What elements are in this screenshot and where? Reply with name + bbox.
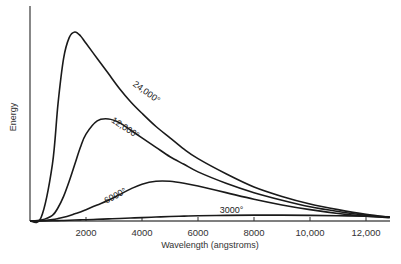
curve-label: 12,000°	[110, 115, 142, 141]
curve-label: 24,000°	[131, 79, 162, 106]
x-tick-label: 6000	[187, 227, 208, 238]
x-tick-label: 2000	[75, 227, 96, 238]
curve-24000	[30, 32, 390, 223]
x-tick-label: 10,000	[295, 227, 324, 238]
x-tick-label: 4000	[131, 227, 152, 238]
curve-12000	[30, 119, 390, 221]
curve-3000	[30, 215, 390, 221]
blackbody-chart: 200040006000800010,00012,000 24,000°12,0…	[0, 0, 401, 264]
x-tick-label: 8000	[243, 227, 264, 238]
curve-label: 3000°	[220, 205, 244, 215]
curve-labels: 24,000°12,000°6000°3000°	[103, 79, 244, 216]
x-axis-ticks: 200040006000800010,00012,000	[75, 217, 380, 238]
x-axis-title: Wavelength (angstroms)	[161, 240, 259, 250]
x-tick-label: 12,000	[351, 227, 380, 238]
y-axis-title: Energy	[8, 102, 18, 131]
curve-label: 6000°	[103, 186, 129, 206]
curves	[30, 32, 390, 223]
